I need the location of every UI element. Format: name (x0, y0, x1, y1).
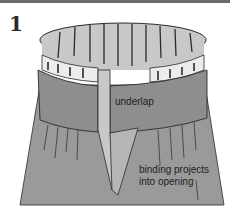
binding-label: binding projects into opening (139, 164, 219, 188)
binding-label-line1: binding projects (139, 164, 219, 176)
binding-label-line2: into opening (139, 176, 219, 188)
underlap-label: underlap (115, 96, 154, 108)
skirt-waistband-illustration (0, 0, 230, 222)
